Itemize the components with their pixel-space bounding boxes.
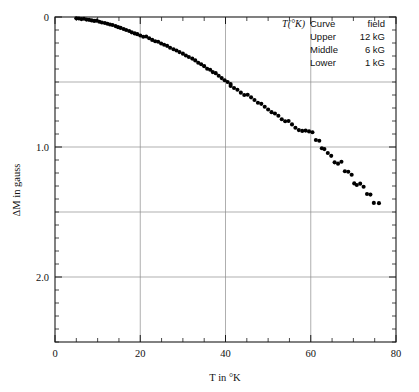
- data-point: [280, 117, 284, 121]
- data-point: [339, 160, 343, 164]
- legend-row-field-2: 1 kG: [365, 57, 385, 68]
- data-point: [297, 128, 301, 132]
- data-point: [304, 129, 308, 133]
- legend-row-field-1: 6 kG: [365, 44, 385, 55]
- data-point: [249, 95, 253, 99]
- data-point: [346, 170, 350, 174]
- y-axis-title: ΔM in gauss: [11, 164, 22, 217]
- scatter-plot: 020406080 01.02.0 T in °K ΔM in gauss T(…: [0, 0, 419, 392]
- data-point: [362, 185, 366, 189]
- data-point: [290, 122, 294, 126]
- y-tick-label: 2.0: [36, 272, 49, 283]
- data-point: [377, 201, 381, 205]
- data-point: [235, 88, 239, 92]
- y-tick-label: 1.0: [36, 142, 49, 153]
- chart-figure: 020406080 01.02.0 T in °K ΔM in gauss T(…: [0, 0, 419, 392]
- data-point: [293, 126, 297, 130]
- legend-row-field-0: 12 kG: [360, 31, 385, 42]
- data-point: [350, 173, 354, 177]
- data-point: [263, 105, 267, 109]
- data-point: [246, 93, 250, 97]
- data-point: [322, 147, 326, 151]
- data-point: [273, 111, 277, 115]
- x-tick-labels: 020406080: [52, 348, 401, 359]
- x-tick-label: 0: [52, 348, 57, 359]
- data-point: [276, 114, 280, 118]
- data-point: [310, 130, 314, 134]
- data-point: [368, 193, 372, 197]
- x-tick-label: 80: [391, 348, 402, 359]
- data-point: [329, 154, 333, 158]
- x-axis-title: T in °K: [209, 372, 241, 383]
- legend-symbol: T(°K): [282, 18, 306, 30]
- data-point: [365, 192, 369, 196]
- data-point: [317, 139, 321, 143]
- x-tick-label: 20: [135, 348, 146, 359]
- x-tick-label: 40: [220, 348, 231, 359]
- data-point: [372, 201, 376, 205]
- data-point: [239, 91, 243, 95]
- data-point: [314, 138, 318, 142]
- data-point: [287, 119, 291, 123]
- legend-row-curve-2: Lower: [310, 57, 336, 68]
- data-point: [252, 98, 256, 102]
- data-point: [326, 151, 330, 155]
- data-point: [229, 84, 233, 88]
- y-tick-label: 0: [44, 12, 49, 23]
- data-point: [358, 182, 362, 186]
- legend-row-curve-0: Upper: [310, 31, 336, 42]
- legend-row-curve-1: Middle: [310, 44, 338, 55]
- legend-header-field: field: [368, 18, 385, 29]
- x-tick-label: 60: [306, 348, 317, 359]
- data-point: [307, 129, 311, 133]
- data-point: [259, 102, 263, 106]
- data-point: [266, 108, 270, 112]
- y-tick-labels: 01.02.0: [36, 12, 49, 283]
- legend-header-curve: Curve: [310, 18, 335, 29]
